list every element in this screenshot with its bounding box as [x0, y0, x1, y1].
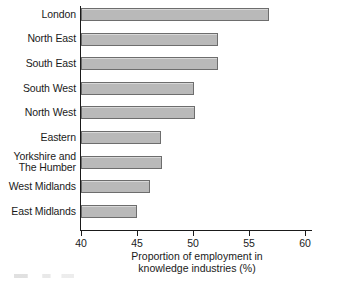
bar: [81, 33, 218, 46]
caption-fragment: [14, 274, 74, 278]
bar-chart-figure: LondonNorth EastSouth EastSouth WestNort…: [0, 0, 337, 281]
x-axis-tick-label: 60: [285, 237, 325, 249]
bar: [81, 180, 150, 193]
bar: [81, 82, 194, 95]
x-axis-tick-label: 45: [117, 237, 157, 249]
x-axis-tick: [249, 231, 250, 236]
x-axis-line: [80, 230, 312, 231]
bar: [81, 131, 161, 144]
bar: [81, 106, 195, 119]
bar: [81, 8, 269, 21]
bar: [81, 57, 218, 70]
x-axis-title: Proportion of employment inknowledge ind…: [81, 251, 313, 274]
x-axis-tick-label: 50: [173, 237, 213, 249]
x-axis-tick-label: 55: [229, 237, 269, 249]
x-axis-title-line: Proportion of employment in: [81, 251, 313, 263]
x-axis-tick: [193, 231, 194, 236]
bar: [81, 205, 137, 218]
x-axis-tick-label: 40: [61, 237, 101, 249]
y-axis-line: [80, 6, 81, 231]
plot-area: LondonNorth EastSouth EastSouth WestNort…: [0, 0, 337, 237]
bars-layer: [0, 0, 337, 237]
x-axis-tick: [305, 231, 306, 236]
bar: [81, 156, 162, 169]
x-axis-tick: [137, 231, 138, 236]
x-axis-title-line: knowledge industries (%): [81, 263, 313, 275]
x-axis-tick: [81, 231, 82, 236]
